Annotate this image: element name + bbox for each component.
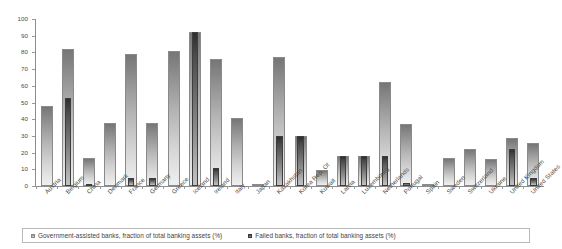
bar-group <box>290 19 311 186</box>
y-axis-tick-label: 70 <box>21 66 28 72</box>
bar-group <box>78 19 99 186</box>
x-axis-tick-mark <box>269 186 270 189</box>
y-axis-tick-label: 80 <box>21 49 28 55</box>
y-axis-tick-label: 30 <box>21 133 28 139</box>
bar-group <box>311 19 332 186</box>
y-axis-tick-label: 100 <box>17 16 28 22</box>
bar-failed <box>65 98 71 187</box>
plot-area: 0102030405060708090100 AustriaBelgiumChi… <box>0 0 551 215</box>
y-axis-tick-mark <box>32 103 35 104</box>
bar-group <box>269 19 290 186</box>
bar-group <box>332 19 353 186</box>
x-axis-tick-mark <box>163 186 164 189</box>
legend-item-label: Failed banks, fraction of total banking … <box>255 232 395 239</box>
y-axis-tick-mark <box>32 52 35 53</box>
bar-group <box>121 19 142 186</box>
bar-group <box>100 19 121 186</box>
x-axis-tick-mark <box>227 186 228 189</box>
bar-group <box>396 19 417 186</box>
legend-swatch-icon <box>248 234 252 238</box>
bar-government-assisted <box>146 123 158 186</box>
bar-group <box>163 19 184 186</box>
y-axis-tick-mark <box>32 119 35 120</box>
x-axis-tick-mark <box>459 186 460 189</box>
bar-government-assisted <box>41 106 53 186</box>
x-axis-tick-mark <box>36 186 37 189</box>
bar-failed <box>297 136 303 186</box>
x-axis-tick-mark <box>205 186 206 189</box>
bar-group <box>417 19 438 186</box>
bar-failed <box>340 156 346 186</box>
x-axis-tick-mark <box>311 186 312 189</box>
y-axis-tick-mark <box>32 186 35 187</box>
x-axis-tick-mark <box>396 186 397 189</box>
legend-swatch-icon <box>31 234 35 238</box>
x-axis-tick-mark <box>354 186 355 189</box>
bar-group <box>354 19 375 186</box>
chart-legend: Government-assisted banks, fraction of t… <box>22 228 530 243</box>
bar-group <box>375 19 396 186</box>
bar-group <box>502 19 523 186</box>
x-axis-tick-mark <box>332 186 333 189</box>
y-axis-tick-mark <box>32 19 35 20</box>
bar-group <box>184 19 205 186</box>
bar-government-assisted <box>104 123 116 186</box>
x-axis-tick-mark <box>502 186 503 189</box>
bar-group <box>142 19 163 186</box>
y-axis-tick-mark <box>32 36 35 37</box>
legend-item-label: Government-assisted banks, fraction of t… <box>38 232 222 239</box>
x-axis-tick-mark <box>417 186 418 189</box>
y-axis: 0102030405060708090100 <box>0 0 32 215</box>
y-axis-tick-mark <box>32 86 35 87</box>
bar-group <box>248 19 269 186</box>
bar-group <box>36 19 57 186</box>
x-axis-tick-mark <box>184 186 185 189</box>
bar-group <box>227 19 248 186</box>
x-axis-tick-mark <box>523 186 524 189</box>
bar-failed <box>361 156 367 186</box>
x-axis-labels: AustriaBelgiumChinaDenmarkFranceGermanyG… <box>0 186 551 226</box>
y-axis-tick-mark <box>32 169 35 170</box>
bar-group <box>459 19 480 186</box>
y-axis-tick-label: 90 <box>21 33 28 39</box>
bar-failed <box>509 149 515 186</box>
bar-group <box>205 19 226 186</box>
bar-group <box>57 19 78 186</box>
x-axis-tick-mark <box>78 186 79 189</box>
bar-government-assisted <box>231 118 243 186</box>
bar-failed <box>192 32 198 186</box>
legend-item-failed: Failed banks, fraction of total banking … <box>248 232 395 239</box>
x-axis-tick-mark <box>100 186 101 189</box>
bars-container <box>36 19 544 186</box>
bar-government-assisted <box>125 54 137 186</box>
y-axis-tick-label: 50 <box>21 100 28 106</box>
bar-group <box>481 19 502 186</box>
x-axis-tick-mark <box>142 186 143 189</box>
bar-government-assisted <box>168 51 180 186</box>
y-axis-tick-label: 60 <box>21 83 28 89</box>
y-axis-tick-mark <box>32 153 35 154</box>
x-axis-tick-mark <box>290 186 291 189</box>
y-axis-tick-mark <box>32 69 35 70</box>
x-axis-tick-mark <box>438 186 439 189</box>
x-axis-tick-mark <box>375 186 376 189</box>
bar-failed <box>276 136 282 186</box>
y-axis-tick-mark <box>32 136 35 137</box>
legend-item-government-assisted: Government-assisted banks, fraction of t… <box>31 232 222 239</box>
x-axis-tick-mark <box>57 186 58 189</box>
x-axis-tick-mark <box>248 186 249 189</box>
y-axis-tick-label: 20 <box>21 150 28 156</box>
y-axis-tick-label: 10 <box>21 166 28 172</box>
x-axis-tick-mark <box>121 186 122 189</box>
bar-group <box>438 19 459 186</box>
y-axis-tick-label: 40 <box>21 116 28 122</box>
x-axis-tick-mark <box>481 186 482 189</box>
